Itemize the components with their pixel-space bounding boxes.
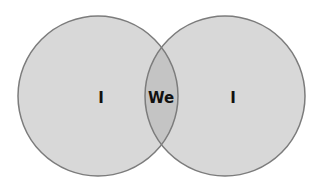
venn-diagram: I We I [0, 0, 322, 190]
right-set-label: I [230, 89, 236, 107]
overlap-label: We [148, 89, 174, 107]
left-set-label: I [98, 89, 104, 107]
